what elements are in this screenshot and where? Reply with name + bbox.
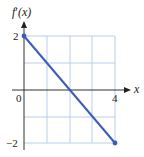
derivative-chart: f′(x) x 0 4 2 −2	[0, 0, 144, 157]
y-axis-label: f′(x)	[12, 5, 31, 19]
y-tick-label-2: 2	[13, 30, 19, 42]
x-axis-label: x	[133, 82, 140, 96]
origin-label: 0	[16, 92, 22, 104]
y-axis-arrow-icon	[21, 21, 27, 28]
y-tick-label-neg2: −2	[6, 137, 18, 149]
start-point	[22, 34, 27, 39]
x-tick-label-4: 4	[112, 92, 118, 104]
x-axis-arrow-icon	[124, 87, 131, 93]
end-point	[113, 141, 118, 146]
